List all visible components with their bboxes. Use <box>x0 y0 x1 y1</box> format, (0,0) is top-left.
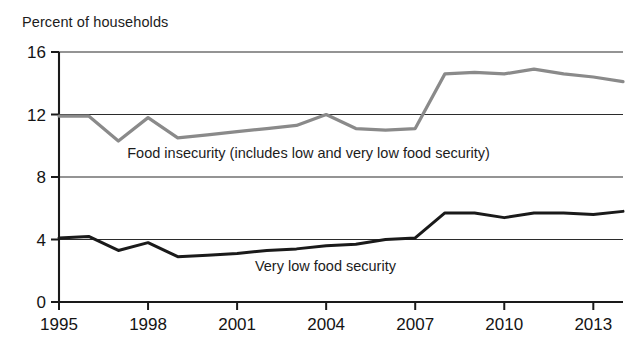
y-tick-label-12: 12 <box>27 106 46 125</box>
line-chart-plot: 04812161995199820012004200720102013Food … <box>0 0 643 351</box>
x-tick-label-2013: 2013 <box>574 315 612 334</box>
x-tick-label-1998: 1998 <box>129 315 167 334</box>
y-tick-label-0: 0 <box>37 293 46 312</box>
series-line-1 <box>59 211 623 256</box>
x-tick-label-2001: 2001 <box>218 315 256 334</box>
series-label-0: Food insecurity (includes low and very l… <box>127 145 490 161</box>
y-tick-label-16: 16 <box>27 43 46 62</box>
y-tick-label-8: 8 <box>37 168 46 187</box>
chart-container: Percent of households 048121619951998200… <box>0 0 643 351</box>
x-tick-label-2007: 2007 <box>396 315 434 334</box>
y-tick-label-4: 4 <box>37 231 46 250</box>
series-label-1: Very low food security <box>255 258 397 274</box>
x-tick-label-1995: 1995 <box>40 315 78 334</box>
series-line-0 <box>59 69 623 141</box>
x-tick-label-2004: 2004 <box>307 315 345 334</box>
x-tick-label-2010: 2010 <box>485 315 523 334</box>
